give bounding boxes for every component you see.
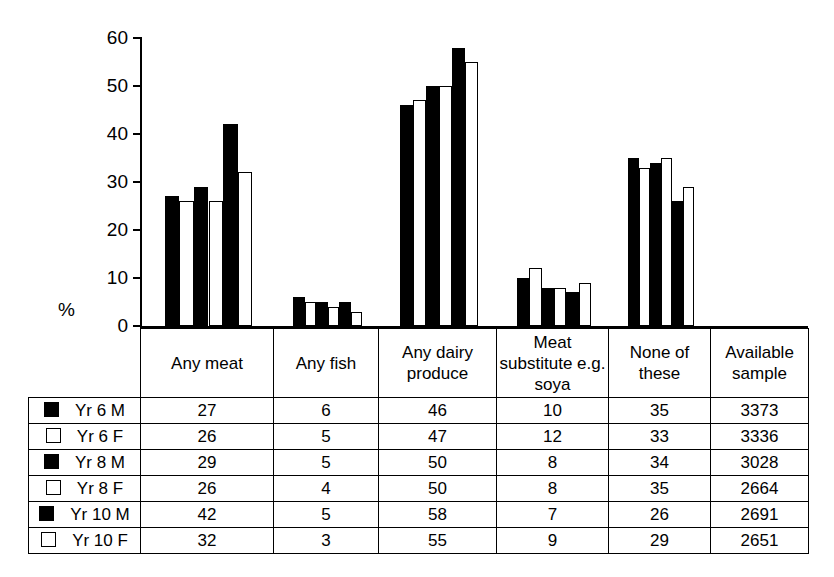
bar <box>293 297 305 326</box>
bar <box>238 172 253 326</box>
y-tick-label: 30 <box>86 172 128 191</box>
hollow-square-icon <box>46 480 61 495</box>
chart-figure: % 0102030405060 Any meat Any fish <box>0 0 834 577</box>
bar <box>628 158 639 326</box>
bar <box>452 48 465 326</box>
y-tick-label: 40 <box>86 124 128 143</box>
table-cell: 2691 <box>711 502 809 528</box>
table-cell: 3028 <box>711 450 809 476</box>
table-cell: 9 <box>497 528 609 554</box>
table-cell: 35 <box>609 398 711 424</box>
column-header-none-of-these: None of these <box>609 329 711 398</box>
y-tick-label: 50 <box>86 76 128 95</box>
table-cell: 50 <box>379 476 497 502</box>
bar <box>209 201 224 326</box>
y-tick-mark <box>133 277 142 279</box>
table-cell: 50 <box>379 450 497 476</box>
table-cell: 46 <box>379 398 497 424</box>
table-cell: 7 <box>497 502 609 528</box>
table-cell: 3 <box>274 528 379 554</box>
data-table: Any meat Any fish Any dairy produce Meat… <box>28 328 809 554</box>
y-tick-mark <box>133 37 142 39</box>
y-tick-mark <box>133 85 142 87</box>
table-row: Yr 10 F323559292651 <box>29 528 809 554</box>
table-cell: 26 <box>141 424 274 450</box>
table-row: Yr 8 M295508343028 <box>29 450 809 476</box>
legend-label: Yr 8 F <box>77 479 123 499</box>
legend-label: Yr 10 F <box>72 531 128 551</box>
bar <box>542 288 554 326</box>
table-cell: 26 <box>609 502 711 528</box>
legend-cell: Yr 8 M <box>29 450 141 476</box>
table-cell: 29 <box>141 450 274 476</box>
table-cell: 35 <box>609 476 711 502</box>
y-tick-label: 10 <box>86 268 128 287</box>
bar <box>566 292 578 326</box>
column-header-any-meat: Any meat <box>141 329 274 398</box>
column-header-any-dairy-produce: Any dairy produce <box>379 329 497 398</box>
table-cell: 3373 <box>711 398 809 424</box>
bar-group <box>380 38 498 326</box>
bar-group <box>610 38 712 326</box>
column-header-meat-substitute: Meat substitute e.g. soya <box>497 329 609 398</box>
bar <box>413 100 426 326</box>
legend-label: Yr 6 M <box>75 401 125 421</box>
table-row: Yr 8 F264508352664 <box>29 476 809 502</box>
y-tick-label: 20 <box>86 220 128 239</box>
bar <box>328 307 340 326</box>
table-cell: 4 <box>274 476 379 502</box>
table-cell: 34 <box>609 450 711 476</box>
filled-square-icon <box>44 454 59 469</box>
bar <box>223 124 238 326</box>
legend-label: Yr 8 M <box>75 453 125 473</box>
table-cell: 5 <box>274 424 379 450</box>
y-tick-label: 60 <box>86 28 128 47</box>
table-cell: 5 <box>274 450 379 476</box>
y-tick-mark <box>133 325 142 327</box>
table-row: Yr 6 F2654712333336 <box>29 424 809 450</box>
legend-cell: Yr 10 M <box>29 502 141 528</box>
legend-label: Yr 6 F <box>77 427 123 447</box>
bar <box>661 158 672 326</box>
filled-square-icon <box>44 402 59 417</box>
bar-group <box>498 38 610 326</box>
bar-chart: % 0102030405060 <box>0 0 834 330</box>
bar <box>339 302 351 326</box>
filled-square-icon <box>39 506 54 521</box>
hollow-square-icon <box>41 532 56 547</box>
bar <box>316 302 328 326</box>
y-axis-unit-label: % <box>58 300 75 319</box>
legend-label: Yr 10 M <box>70 505 130 525</box>
bar-group <box>275 38 380 326</box>
table-cell: 6 <box>274 398 379 424</box>
bar <box>529 268 541 326</box>
table-cell: 5 <box>274 502 379 528</box>
table-cell: 55 <box>379 528 497 554</box>
bar <box>465 62 478 326</box>
legend-cell: Yr 6 M <box>29 398 141 424</box>
y-tick-mark <box>133 133 142 135</box>
legend-cell: Yr 8 F <box>29 476 141 502</box>
table-cell: 2664 <box>711 476 809 502</box>
table-cell: 26 <box>141 476 274 502</box>
bar <box>305 302 317 326</box>
table-header-row: Any meat Any fish Any dairy produce Meat… <box>29 329 809 398</box>
bar <box>650 163 661 326</box>
bar <box>400 105 413 326</box>
bar <box>194 187 209 326</box>
table-corner-cell <box>29 329 141 398</box>
table-cell: 12 <box>497 424 609 450</box>
data-table-wrapper: Any meat Any fish Any dairy produce Meat… <box>28 328 808 554</box>
bar <box>517 278 529 326</box>
table-cell: 32 <box>141 528 274 554</box>
bar <box>179 201 194 326</box>
bar <box>554 288 566 326</box>
bar <box>672 201 683 326</box>
table-cell: 29 <box>609 528 711 554</box>
table-body: Yr 6 M2764610353373Yr 6 F2654712333336Yr… <box>29 398 809 554</box>
bar <box>165 196 180 326</box>
table-cell: 10 <box>497 398 609 424</box>
legend-cell: Yr 6 F <box>29 424 141 450</box>
table-cell: 33 <box>609 424 711 450</box>
table-row: Yr 6 M2764610353373 <box>29 398 809 424</box>
